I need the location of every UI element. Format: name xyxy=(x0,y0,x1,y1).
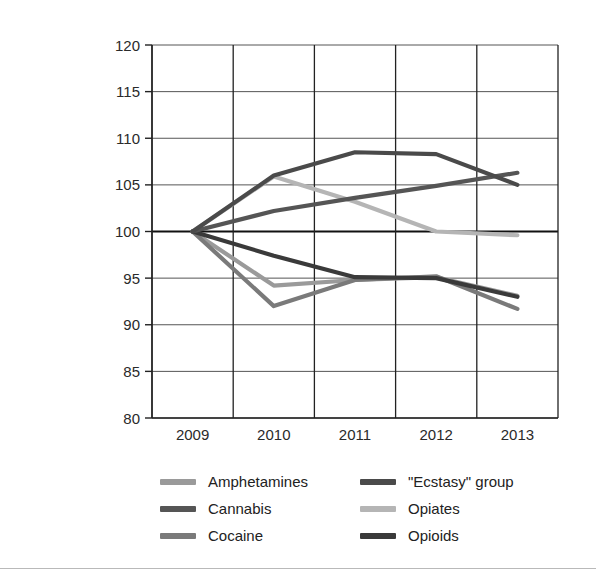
chart-figure: Prevalence of use (index base = 100 in 2… xyxy=(0,0,596,580)
y-tick-label: 120 xyxy=(115,37,140,54)
legend-item: Opioids xyxy=(360,527,560,544)
legend-swatch-icon xyxy=(160,479,196,485)
y-tick-label: 100 xyxy=(115,223,140,240)
legend-item: Amphetamines xyxy=(160,473,360,490)
y-tick-label: 105 xyxy=(115,176,140,193)
legend-item-label: Opiates xyxy=(408,500,460,517)
series-line xyxy=(193,232,518,309)
legend-item-label: Opioids xyxy=(408,527,459,544)
legend-item-label: Cocaine xyxy=(208,527,263,544)
legend-item-label: Amphetamines xyxy=(208,473,308,490)
y-tick-label: 110 xyxy=(116,130,140,147)
legend-swatch-icon xyxy=(360,506,396,512)
data-series-group xyxy=(193,152,518,309)
x-tick-label: 2009 xyxy=(176,426,209,443)
x-tick-label: 2012 xyxy=(420,426,453,443)
bottom-divider xyxy=(0,568,596,569)
legend-item-label: Cannabis xyxy=(208,500,271,517)
y-axis-tick-labels: 80859095100105110115120 xyxy=(115,37,140,427)
legend-swatch-icon xyxy=(160,506,196,512)
y-tick-label: 115 xyxy=(116,83,140,100)
x-tick-label: 2011 xyxy=(339,426,371,443)
x-axis-tick-labels: 20092010201120122013 xyxy=(176,426,534,443)
y-tick-label: 95 xyxy=(123,270,140,287)
y-tick-label: 90 xyxy=(123,316,140,333)
chart-legend: Amphetamines "Ecstasy" group Cannabis Op… xyxy=(160,468,560,548)
legend-swatch-icon xyxy=(160,533,196,539)
y-tick-label: 80 xyxy=(123,410,140,427)
y-tick-label: 85 xyxy=(123,363,140,380)
gridlines xyxy=(145,45,558,418)
legend-item: "Ecstasy" group xyxy=(360,473,560,490)
legend-item: Cannabis xyxy=(160,500,360,517)
x-tick-label: 2010 xyxy=(257,426,290,443)
legend-item-label: "Ecstasy" group xyxy=(408,473,514,490)
line-chart-plot: 80859095100105110115120 2009201020112012… xyxy=(0,0,596,470)
legend-swatch-icon xyxy=(360,533,396,539)
legend-item: Opiates xyxy=(360,500,560,517)
legend-swatch-icon xyxy=(360,479,396,485)
legend-item: Cocaine xyxy=(160,527,360,544)
x-tick-label: 2013 xyxy=(501,426,534,443)
